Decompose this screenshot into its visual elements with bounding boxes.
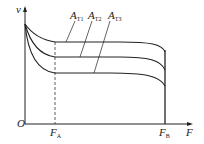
- plot-area: [0, 0, 204, 144]
- curve-at1: [25, 24, 165, 52]
- curve-at3: [25, 24, 165, 86]
- label-at3: AT3: [108, 10, 121, 22]
- y-axis-label: v: [16, 4, 21, 15]
- tick-fa: FA: [50, 127, 61, 139]
- leader-at1: [66, 21, 75, 42]
- label-at1: AT1: [70, 10, 83, 22]
- leader-at3: [94, 21, 110, 73]
- diagram: v O F FA FB AT1 AT2 AT3: [0, 0, 204, 144]
- origin-label: O: [17, 118, 25, 129]
- tick-fb: FB: [159, 127, 170, 139]
- label-at2: AT2: [88, 10, 101, 22]
- x-axis-label: F: [186, 127, 193, 138]
- leader-at2: [80, 21, 92, 57]
- curve-at2: [25, 24, 165, 70]
- y-axis-arrow-icon: [23, 6, 27, 12]
